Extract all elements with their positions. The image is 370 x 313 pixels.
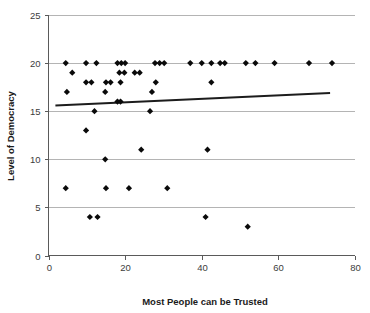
data-point	[161, 60, 167, 66]
x-tick-label-60: 60	[273, 262, 284, 273]
data-point	[153, 79, 159, 85]
trendline-path	[55, 93, 330, 106]
y-axis-title: Level of Democracy	[5, 90, 16, 180]
data-point	[199, 60, 205, 66]
data-points-group	[63, 60, 335, 230]
data-point	[149, 89, 155, 95]
data-point	[107, 79, 113, 85]
y-tick-label-25: 25	[30, 10, 41, 21]
data-point	[122, 60, 128, 66]
data-point	[138, 147, 144, 153]
data-point	[252, 60, 258, 66]
data-point	[208, 79, 214, 85]
x-tick-label-80: 80	[350, 262, 361, 273]
data-point	[63, 185, 69, 191]
data-point	[126, 185, 132, 191]
data-point	[88, 79, 94, 85]
data-point	[64, 89, 70, 95]
data-point	[83, 60, 89, 66]
data-point	[204, 147, 210, 153]
x-axis-title: Most People can be Trusted	[142, 296, 268, 307]
data-point	[69, 70, 75, 76]
y-tick-label-0: 0	[35, 251, 40, 262]
y-tick-label-20: 20	[30, 58, 41, 69]
x-tick-label-40: 40	[197, 262, 208, 273]
data-point	[137, 70, 143, 76]
y-tick-label-10: 10	[30, 154, 41, 165]
x-tick-labels-group: 020406080	[47, 262, 361, 273]
data-point	[102, 89, 108, 95]
data-point	[329, 60, 335, 66]
data-point	[306, 60, 312, 66]
data-point	[243, 60, 249, 66]
data-point	[271, 60, 277, 66]
data-point	[102, 156, 108, 162]
data-point	[222, 60, 228, 66]
data-point	[91, 108, 97, 114]
data-point	[63, 60, 69, 66]
trendline	[55, 93, 330, 106]
data-point	[147, 108, 153, 114]
data-point	[164, 185, 170, 191]
x-tick-label-20: 20	[120, 262, 131, 273]
data-point	[83, 79, 89, 85]
y-tick-labels-group: 0510152025	[30, 10, 41, 262]
data-point	[83, 127, 89, 133]
chart-canvas: 020406080 0510152025 Most People can be …	[0, 0, 370, 313]
y-tick-label-5: 5	[35, 202, 40, 213]
data-point	[245, 224, 251, 230]
data-point	[93, 60, 99, 66]
data-point	[117, 79, 123, 85]
data-point	[103, 185, 109, 191]
data-point	[87, 214, 93, 220]
data-point	[202, 214, 208, 220]
x-tick-label-0: 0	[47, 262, 52, 273]
scatter-chart: 020406080 0510152025 Most People can be …	[0, 0, 370, 313]
data-point	[187, 60, 193, 66]
data-point	[94, 214, 100, 220]
data-point	[121, 70, 127, 76]
data-point	[208, 60, 214, 66]
y-tick-label-15: 15	[30, 106, 41, 117]
axis-lines-group	[48, 15, 355, 256]
